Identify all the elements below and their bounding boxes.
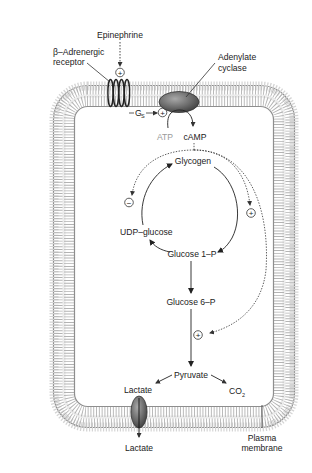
pyruvate-to-lactate-arrow xyxy=(156,375,172,383)
lactate-outside-label: Lactate xyxy=(125,443,153,453)
udp-glucose-label: UDP–glucose xyxy=(120,227,173,237)
glucose-6p-label: Glucose 6–P xyxy=(166,297,215,307)
membrane-label-line2: membrane xyxy=(241,443,282,453)
adenylate-cyclase xyxy=(159,92,199,113)
atp-label: ATP xyxy=(157,132,173,142)
pyruvate-label: Pyruvate xyxy=(174,370,208,380)
receptor-label-line1: β–Adrenergic xyxy=(53,47,105,57)
pyruvate-to-co2-arrow xyxy=(211,375,226,383)
cyclase-label-line2: cyclase xyxy=(218,63,247,73)
svg-text:+: + xyxy=(160,109,165,118)
co2-label: CO 2 xyxy=(229,386,245,398)
svg-text:+: + xyxy=(249,209,254,218)
glycogen-label: Glycogen xyxy=(175,156,212,166)
svg-text:CO: CO xyxy=(229,386,242,396)
svg-text:S: S xyxy=(141,113,145,119)
membrane-label-line1: Plasma xyxy=(248,433,277,443)
receptor-label-line2: receptor xyxy=(53,57,85,67)
glucose-1p-label: Glucose 1–P xyxy=(167,249,216,259)
glycogen-breakdown-activate-mark: + xyxy=(247,209,256,218)
epinephrine-label: Epinephrine xyxy=(97,30,143,40)
svg-text:+: + xyxy=(118,69,123,78)
glycogen-cycle xyxy=(142,164,238,252)
receptor-leader-line xyxy=(87,63,110,82)
glycolysis-activate-mark: + xyxy=(194,331,203,340)
cyclase-label-line1: Adenylate xyxy=(218,52,256,62)
diagram-canvas: Epinephrine + β–Adrenergic receptor G S … xyxy=(0,0,312,473)
svg-text:2: 2 xyxy=(242,392,245,398)
camp-label: cAMP xyxy=(184,132,207,142)
receptor-activation-mark: + xyxy=(116,68,125,77)
svg-text:+: + xyxy=(196,331,201,340)
glycogen-synthesis-inhibit-mark: − xyxy=(125,198,134,207)
gs-protein-label: G S xyxy=(129,108,157,119)
svg-text:−: − xyxy=(127,199,132,208)
lactate-inside-label: Lactate xyxy=(124,385,152,395)
